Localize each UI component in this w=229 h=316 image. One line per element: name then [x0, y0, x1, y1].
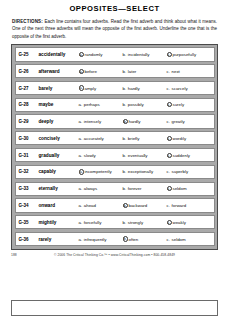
- table-row[interactable]: G-28 maybe a.perhaps b.possibly c.surely: [15, 98, 215, 112]
- item-code: G-31: [19, 153, 39, 158]
- option-text: greatly: [172, 119, 185, 124]
- option-text: briefly: [128, 136, 140, 141]
- option-group: a.perhaps b.possibly c.surely: [79, 102, 211, 107]
- option-b[interactable]: b.possibly: [123, 102, 167, 107]
- option-text: forward: [172, 203, 187, 208]
- item-code: G-26: [19, 69, 39, 74]
- option-b[interactable]: b.backward: [123, 203, 167, 208]
- table-row[interactable]: G-30 concisely a.accurately b.briefly c.…: [15, 131, 215, 145]
- option-letter: c.: [167, 169, 170, 174]
- option-a[interactable]: a.intensely: [79, 119, 123, 124]
- option-letter: c.: [167, 69, 170, 74]
- table-row[interactable]: G-29 deeply a.intensely b.hardly c.great…: [15, 114, 215, 128]
- option-group: a.incompetently b.exceptionally c.superb…: [79, 169, 211, 174]
- option-b[interactable]: b.later: [123, 69, 167, 74]
- item-code: G-36: [19, 237, 39, 242]
- option-letter: c.: [167, 203, 170, 208]
- option-c[interactable]: c.suddenly: [167, 153, 211, 158]
- option-text: slowly: [84, 153, 96, 158]
- option-letter: c.: [167, 52, 172, 57]
- option-letter: a.: [79, 237, 83, 242]
- table-row[interactable]: G-31 gradually a.slowly b.eventually c.s…: [15, 148, 215, 162]
- option-letter: b.: [123, 69, 127, 74]
- option-a[interactable]: a.forcefully: [79, 220, 123, 225]
- item-code: G-32: [19, 169, 39, 174]
- option-a[interactable]: a.slowly: [79, 153, 123, 158]
- table-row[interactable]: G-33 eternally a.always b.forever c.seld…: [15, 182, 215, 196]
- option-b[interactable]: b.often: [123, 236, 167, 241]
- option-b[interactable]: b.incidentally: [123, 52, 167, 57]
- option-letter: a.: [79, 153, 83, 158]
- option-text: forever: [128, 186, 142, 191]
- table-row[interactable]: G-27 barely a.amply b.hardly c.scarcely: [15, 81, 215, 95]
- table-row[interactable]: G-26 afterward a.before b.later c.next: [15, 64, 215, 78]
- option-a[interactable]: a.ahead: [79, 203, 123, 208]
- option-b[interactable]: b.hardly: [123, 119, 167, 124]
- option-c[interactable]: c.next: [167, 69, 211, 74]
- copyright-notice: © 2006 The Critical Thinking Co.™ • www.…: [11, 253, 218, 257]
- option-text: eventually: [128, 153, 148, 158]
- table-row[interactable]: G-25 accidentally a.randomly b.incidenta…: [15, 47, 215, 61]
- option-text: suddenly: [172, 153, 190, 158]
- option-group: a.randomly b.incidentally c.purposefully: [79, 52, 211, 57]
- option-c[interactable]: c.scarcely: [167, 86, 211, 91]
- option-letter: b.: [123, 186, 127, 191]
- option-c[interactable]: c.superbly: [167, 169, 211, 174]
- option-b[interactable]: b.hardly: [123, 86, 167, 91]
- option-a[interactable]: a.infrequently: [79, 237, 123, 242]
- option-letter: b.: [123, 52, 127, 57]
- option-a[interactable]: a.incompetently: [79, 169, 123, 174]
- option-c[interactable]: c.wordily: [167, 136, 211, 141]
- option-text: superbly: [172, 169, 189, 174]
- option-letter: b.: [123, 203, 128, 208]
- option-group: a.accurately b.briefly c.wordily: [79, 136, 211, 141]
- option-c[interactable]: c.forward: [167, 203, 211, 208]
- option-text: accurately: [84, 136, 104, 141]
- option-b[interactable]: b.forever: [123, 186, 167, 191]
- item-code: G-27: [19, 86, 39, 91]
- option-a[interactable]: a.perhaps: [79, 102, 123, 107]
- option-a[interactable]: a.always: [79, 186, 123, 191]
- table-row[interactable]: G-34 onward a.ahead b.backward c.forward: [15, 198, 215, 212]
- option-letter: a.: [79, 203, 83, 208]
- option-b[interactable]: b.briefly: [123, 136, 167, 141]
- item-code: G-34: [19, 203, 39, 208]
- option-letter: c.: [167, 86, 170, 91]
- option-text: scarcely: [172, 86, 188, 91]
- option-b[interactable]: b.eventually: [123, 153, 167, 158]
- option-text: seldom: [172, 186, 186, 191]
- option-a[interactable]: a.before: [79, 69, 123, 74]
- option-c[interactable]: c.purposefully: [167, 52, 211, 57]
- table-row[interactable]: G-32 capably a.incompetently b.exception…: [15, 165, 215, 179]
- option-text: seldom: [172, 237, 186, 242]
- option-a[interactable]: a.amply: [79, 85, 123, 90]
- option-c[interactable]: c.seldom: [167, 186, 211, 191]
- option-letter: a.: [79, 69, 84, 74]
- option-a[interactable]: a.accurately: [79, 136, 123, 141]
- option-text: backward: [128, 203, 147, 208]
- item-keyword: concisely: [39, 136, 79, 141]
- option-text: next: [172, 69, 180, 74]
- option-letter: b.: [123, 86, 127, 91]
- option-c[interactable]: c.surely: [167, 102, 211, 107]
- option-a[interactable]: a.randomly: [79, 52, 123, 57]
- option-text: hardly: [128, 86, 140, 91]
- table-row[interactable]: G-35 mightily a.forcefully b.strongly c.…: [15, 215, 215, 229]
- option-c[interactable]: c.greatly: [167, 119, 211, 124]
- option-text: weakly: [172, 220, 185, 225]
- option-text: strongly: [128, 220, 143, 225]
- option-text: purposefully: [172, 52, 196, 57]
- table-row[interactable]: G-36 rarely a.infrequently b.often c.sel…: [15, 232, 215, 246]
- option-letter: b.: [123, 136, 127, 141]
- next-exercise-box: [11, 300, 218, 316]
- page-footer: 188 © 2006 The Critical Thinking Co.™ • …: [11, 253, 218, 261]
- item-code: G-35: [19, 220, 39, 225]
- option-text: always: [84, 186, 97, 191]
- option-c[interactable]: c.seldom: [167, 237, 211, 242]
- option-text: later: [128, 69, 137, 74]
- option-group: a.always b.forever c.seldom: [79, 186, 211, 191]
- option-b[interactable]: b.exceptionally: [123, 169, 167, 174]
- option-b[interactable]: b.strongly: [123, 220, 167, 225]
- item-code: G-25: [19, 52, 39, 57]
- option-c[interactable]: c.weakly: [167, 220, 211, 225]
